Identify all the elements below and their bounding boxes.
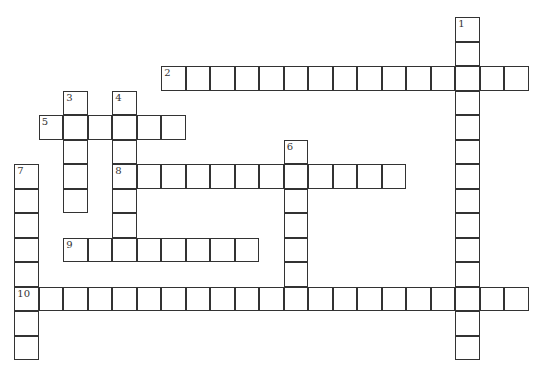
crossword-cell[interactable] [161,115,186,140]
crossword-cell[interactable] [406,66,431,91]
crossword-cell[interactable]: 1 [455,17,480,42]
crossword-cell[interactable] [112,140,137,165]
crossword-cell[interactable]: 4 [112,91,137,116]
crossword-cell[interactable]: 7 [14,164,39,189]
crossword-cell[interactable] [137,115,162,140]
crossword-cell[interactable] [333,164,358,189]
crossword-cell[interactable] [455,115,480,140]
crossword-cell[interactable] [14,336,39,361]
crossword-cell[interactable] [455,42,480,67]
crossword-cell[interactable] [455,262,480,287]
crossword-cell[interactable] [259,66,284,91]
crossword-cell[interactable] [137,287,162,312]
crossword-cell[interactable] [259,164,284,189]
crossword-cell[interactable]: 2 [161,66,186,91]
crossword-cell[interactable] [137,238,162,263]
crossword-cell[interactable] [137,164,162,189]
crossword-cell[interactable] [14,262,39,287]
crossword-cell[interactable] [480,66,505,91]
crossword-cell[interactable] [284,189,309,214]
crossword-cell[interactable] [455,238,480,263]
crossword-cell[interactable] [63,115,88,140]
crossword-cell[interactable] [210,287,235,312]
crossword-cell[interactable] [455,91,480,116]
clue-number: 9 [66,240,72,250]
crossword-cell[interactable] [480,287,505,312]
crossword-cell[interactable] [455,213,480,238]
clue-number: 3 [66,93,72,103]
crossword-cell[interactable]: 8 [112,164,137,189]
crossword-cell[interactable] [382,164,407,189]
crossword-cell[interactable] [333,66,358,91]
crossword-cell[interactable]: 5 [39,115,64,140]
crossword-cell[interactable] [382,287,407,312]
crossword-cell[interactable] [186,238,211,263]
crossword-cell[interactable] [14,189,39,214]
crossword-cell[interactable] [63,164,88,189]
crossword-cell[interactable] [308,287,333,312]
crossword-cell[interactable]: 6 [284,140,309,165]
crossword-cell[interactable] [308,164,333,189]
crossword-cell[interactable] [284,287,309,312]
crossword-cell[interactable] [357,287,382,312]
crossword-cell[interactable] [235,164,260,189]
crossword-cell[interactable] [112,287,137,312]
crossword-cell[interactable] [284,238,309,263]
crossword-cell[interactable] [504,287,529,312]
crossword-cell[interactable] [63,189,88,214]
crossword-cell[interactable] [406,287,431,312]
crossword-cell[interactable] [161,164,186,189]
crossword-cell[interactable] [284,66,309,91]
crossword-cell[interactable] [284,262,309,287]
crossword-cell[interactable] [14,311,39,336]
crossword-cell[interactable]: 9 [63,238,88,263]
crossword-cell[interactable] [63,287,88,312]
crossword-cell[interactable] [235,238,260,263]
crossword-cell[interactable] [455,311,480,336]
clue-number: 4 [115,93,121,103]
crossword-cell[interactable] [112,189,137,214]
crossword-cell[interactable] [14,213,39,238]
crossword-cell[interactable] [161,287,186,312]
crossword-cell[interactable] [112,213,137,238]
crossword-cell[interactable] [186,66,211,91]
crossword-cell[interactable] [431,287,456,312]
crossword-cell[interactable] [455,189,480,214]
crossword-cell[interactable] [210,66,235,91]
crossword-cell[interactable] [284,213,309,238]
crossword-cell[interactable] [39,287,64,312]
clue-number: 1 [458,19,464,29]
crossword-cell[interactable] [88,115,113,140]
crossword-cell[interactable] [88,287,113,312]
crossword-cell[interactable] [333,287,358,312]
crossword-cell[interactable] [455,336,480,361]
crossword-cell[interactable] [210,164,235,189]
clue-number: 5 [42,117,48,127]
crossword-cell[interactable] [63,140,88,165]
crossword-cell[interactable] [235,287,260,312]
crossword-cell[interactable] [88,238,113,263]
crossword-cell[interactable] [14,238,39,263]
crossword-cell[interactable] [455,164,480,189]
crossword-cell[interactable] [284,164,309,189]
crossword-cell[interactable] [112,115,137,140]
crossword-cell[interactable] [455,140,480,165]
crossword-cell[interactable] [357,66,382,91]
crossword-cell[interactable] [504,66,529,91]
crossword-cell[interactable] [161,238,186,263]
crossword-cell[interactable] [382,66,407,91]
crossword-cell[interactable] [235,66,260,91]
crossword-cell[interactable]: 3 [63,91,88,116]
crossword-cell[interactable] [455,66,480,91]
crossword-cell[interactable] [186,287,211,312]
crossword-cell[interactable] [210,238,235,263]
crossword-cell[interactable] [431,66,456,91]
crossword-cell[interactable] [455,287,480,312]
crossword-cell[interactable]: 10 [14,287,39,312]
crossword-cell[interactable] [186,164,211,189]
crossword-cell[interactable] [112,238,137,263]
crossword-cell[interactable] [308,66,333,91]
crossword-cell[interactable] [357,164,382,189]
clue-number: 8 [115,166,121,176]
crossword-cell[interactable] [259,287,284,312]
